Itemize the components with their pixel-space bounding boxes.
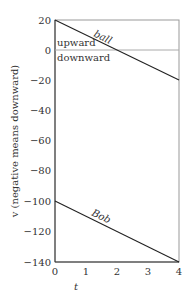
bob-label: Bob <box>89 206 113 225</box>
y-axis-label: v (negative means downward) <box>9 65 20 219</box>
bob-line <box>55 201 179 262</box>
velocity-chart: 20 0 −20 −40 −60 −80 −100 −120 −140 0 1 … <box>0 0 193 303</box>
x-tick: 3 <box>145 266 151 277</box>
x-tick: 2 <box>114 266 120 277</box>
y-tick: −120 <box>24 226 51 237</box>
y-tick: −80 <box>30 165 51 176</box>
y-tick: 20 <box>38 15 51 26</box>
downward-annotation: downward <box>57 52 111 63</box>
y-tick: 0 <box>45 45 51 56</box>
x-tick: 1 <box>83 266 89 277</box>
y-tick: −40 <box>30 105 51 116</box>
y-tick: −100 <box>24 196 51 207</box>
x-tick: 0 <box>52 266 58 277</box>
x-tick: 4 <box>176 266 182 277</box>
y-tick: −20 <box>30 75 51 86</box>
y-tick-labels: 20 0 −20 −40 −60 −80 −100 −120 −140 <box>24 15 51 268</box>
y-tick: −140 <box>24 257 51 268</box>
x-tick-labels: 0 1 2 3 4 <box>52 266 182 277</box>
y-tick: −60 <box>30 135 51 146</box>
upward-annotation: upward <box>57 37 96 48</box>
x-axis-label: t <box>74 281 79 292</box>
